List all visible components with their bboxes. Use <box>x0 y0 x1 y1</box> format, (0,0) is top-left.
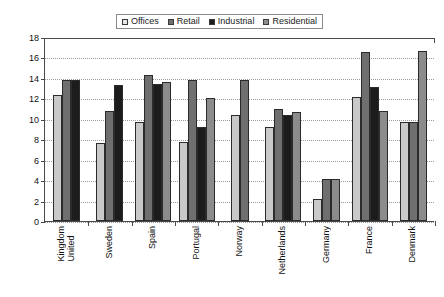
y-axis-tick-label: 18 <box>29 34 39 43</box>
x-axis-tick-mark <box>348 221 349 226</box>
x-axis-tick-mark <box>262 221 263 226</box>
bar-industrial[interactable] <box>71 80 80 221</box>
x-axis-tick-mark <box>175 221 176 226</box>
y-axis-tick-label: 12 <box>29 95 39 104</box>
bar-residential[interactable] <box>379 111 388 221</box>
x-axis-label-line: Netherlands <box>277 226 287 275</box>
legend-swatch-retail-icon <box>168 19 174 25</box>
x-axis-label-line: Kingdom <box>56 226 66 262</box>
bar-residential[interactable] <box>418 51 427 221</box>
bar-offices[interactable] <box>135 122 144 221</box>
bar-retail[interactable] <box>274 109 283 221</box>
x-axis-label-line: Germany <box>321 226 331 263</box>
y-axis-tick-label: 14 <box>29 75 39 84</box>
bar-retail[interactable] <box>144 75 153 221</box>
x-axis-tick-mark <box>218 221 219 226</box>
x-axis-label: France <box>364 226 374 254</box>
bar-residential[interactable] <box>292 112 301 221</box>
y-axis-tick-mark <box>41 222 45 223</box>
y-axis-tick-label: 2 <box>34 198 39 207</box>
x-axis-label-line: France <box>364 226 374 254</box>
bar-retail[interactable] <box>240 80 249 221</box>
x-axis-tick-mark <box>392 221 393 226</box>
x-axis-label: Sweden <box>104 226 114 259</box>
legend-item-retail[interactable]: Retail <box>168 17 200 26</box>
bar-offices[interactable] <box>179 142 188 221</box>
bar-offices[interactable] <box>265 127 274 221</box>
bar-group <box>392 38 435 221</box>
x-axis-label-line: United <box>66 226 76 262</box>
x-axis-tick-mark <box>88 221 89 226</box>
bar-group <box>45 38 88 221</box>
gridline <box>45 222 434 223</box>
x-axis-label-line: Sweden <box>104 226 114 259</box>
bar-industrial[interactable] <box>197 127 206 221</box>
x-axis-label: Portugal <box>191 226 201 260</box>
legend-label: Retail <box>177 17 200 26</box>
bar-group <box>88 38 131 221</box>
y-axis-tick-label: 0 <box>34 218 39 227</box>
legend-label: Residential <box>272 17 317 26</box>
bar-industrial[interactable] <box>283 115 292 221</box>
bar-retail[interactable] <box>322 179 331 221</box>
x-axis-label: Netherlands <box>277 226 287 275</box>
y-axis-tick-label: 4 <box>34 177 39 186</box>
bar-industrial[interactable] <box>153 84 162 221</box>
bar-retail[interactable] <box>105 111 114 221</box>
bar-offices[interactable] <box>96 143 105 221</box>
bar-offices[interactable] <box>313 199 322 221</box>
bar-industrial[interactable] <box>114 85 123 221</box>
bar-residential[interactable] <box>206 98 215 221</box>
x-axis-tick-mark <box>435 221 436 226</box>
bar-retail[interactable] <box>188 80 197 221</box>
bar-offices[interactable] <box>53 95 62 221</box>
bar-retail[interactable] <box>62 80 71 221</box>
plot-area: 024681012141618 <box>44 38 434 222</box>
x-axis-label: Germany <box>321 226 331 263</box>
legend-item-residential[interactable]: Residential <box>263 17 317 26</box>
bar-industrial[interactable] <box>370 87 379 221</box>
bar-offices[interactable] <box>352 97 361 221</box>
bar-group <box>132 38 175 221</box>
y-axis-tick-label: 6 <box>34 157 39 166</box>
bar-group <box>218 38 261 221</box>
bar-offices[interactable] <box>400 122 409 221</box>
bar-retail[interactable] <box>409 122 418 221</box>
legend-swatch-industrial-icon <box>209 19 215 25</box>
x-axis-tick-mark <box>132 221 133 226</box>
legend-label: Industrial <box>218 17 255 26</box>
x-axis-label: UnitedKingdom <box>56 226 76 262</box>
bar-retail[interactable] <box>361 52 370 221</box>
legend-swatch-offices-icon <box>122 19 128 25</box>
x-axis-label: Spain <box>147 226 157 249</box>
bar-residential[interactable] <box>331 179 340 221</box>
legend-item-offices[interactable]: Offices <box>122 17 159 26</box>
y-axis-tick-label: 10 <box>29 116 39 125</box>
x-axis-label: Norway <box>234 226 244 257</box>
x-axis-label-line: Denmark <box>407 226 417 263</box>
x-axis-label-line: Norway <box>234 226 244 257</box>
bar-group <box>175 38 218 221</box>
legend-swatch-residential-icon <box>263 19 269 25</box>
bar-offices[interactable] <box>231 115 240 221</box>
bar-residential[interactable] <box>162 82 171 221</box>
x-axis-tick-mark <box>305 221 306 226</box>
bar-group <box>262 38 305 221</box>
legend-label: Offices <box>131 17 159 26</box>
x-axis-label-line: Portugal <box>191 226 201 260</box>
y-axis-tick-label: 8 <box>34 136 39 145</box>
y-axis-tick-label: 16 <box>29 54 39 63</box>
legend-item-industrial[interactable]: Industrial <box>209 17 255 26</box>
x-axis-label-line: Spain <box>147 226 157 249</box>
chart-legend: OfficesRetailIndustrialResidential <box>116 14 323 29</box>
bar-group <box>305 38 348 221</box>
x-axis-label: Denmark <box>407 226 417 263</box>
bar-group <box>348 38 391 221</box>
bar-chart: OfficesRetailIndustrialResidential 02468… <box>0 0 444 297</box>
